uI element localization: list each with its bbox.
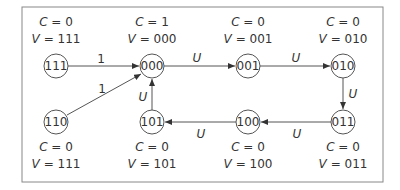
- edges: [67, 66, 343, 122]
- node-v-value: V = 100: [224, 157, 273, 171]
- node-010: 010 C = 0 V = 010: [319, 15, 368, 78]
- node-v-value: V = 001: [224, 32, 273, 46]
- node-v-value: V = 011: [319, 157, 368, 171]
- edge-label-000-001: U: [193, 51, 202, 65]
- node-101: 101 C = 0 V = 101: [128, 110, 177, 171]
- node-label: 110: [45, 115, 68, 129]
- node-c-value: C = 0: [135, 140, 169, 154]
- edge-label-010-011: U: [349, 87, 358, 101]
- node-011: 011 C = 0 V = 011: [319, 110, 368, 171]
- node-111: 111 C = 0 V = 111: [32, 15, 81, 78]
- node-000: 000 C = 1 V = 000: [128, 15, 177, 78]
- edge-label-001-010: U: [292, 51, 301, 65]
- edge-label-110-000: 1: [98, 82, 106, 96]
- edge-label-100-101: U: [197, 127, 206, 141]
- node-c-value: C = 0: [39, 15, 73, 29]
- node-v-value: V = 111: [32, 157, 81, 171]
- node-v-value: V = 000: [128, 32, 177, 46]
- node-label: 001: [237, 59, 260, 73]
- node-label: 100: [237, 115, 260, 129]
- node-v-value: V = 101: [128, 157, 177, 171]
- node-c-value: C = 1: [135, 15, 169, 29]
- state-diagram: 1 1 U U U U U U 111 C = 0 V = 111 000 C …: [0, 0, 400, 190]
- node-label: 101: [141, 115, 164, 129]
- node-v-value: V = 010: [319, 32, 368, 46]
- node-c-value: C = 0: [231, 140, 265, 154]
- node-c-value: C = 0: [326, 140, 360, 154]
- node-100: 100 C = 0 V = 100: [224, 110, 273, 171]
- edge-label-111-000: 1: [97, 52, 105, 66]
- node-label: 011: [332, 115, 355, 129]
- node-v-value: V = 111: [32, 32, 81, 46]
- edge-label-101-000: U: [139, 90, 148, 104]
- node-001: 001 C = 0 V = 001: [224, 15, 273, 78]
- node-c-value: C = 0: [39, 140, 73, 154]
- node-label: 111: [45, 59, 68, 73]
- node-label: 010: [332, 59, 355, 73]
- node-label: 000: [141, 59, 164, 73]
- edge-label-011-100: U: [293, 127, 302, 141]
- node-c-value: C = 0: [326, 15, 360, 29]
- node-110: 110 C = 0 V = 111: [32, 110, 81, 171]
- node-c-value: C = 0: [231, 15, 265, 29]
